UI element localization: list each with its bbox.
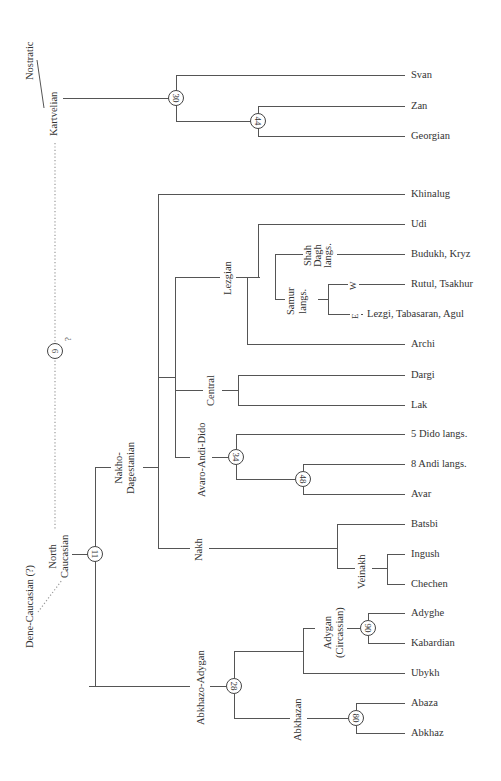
label-shah-dagh: ShahDaghlangs. bbox=[303, 241, 333, 270]
node-80-label: 80 bbox=[351, 710, 361, 726]
node-28-label: 28 bbox=[229, 678, 239, 694]
leaf-ubykh: Ubykh bbox=[411, 667, 440, 679]
leaf-khinalug: Khinalug bbox=[411, 188, 450, 200]
label-avaro-andi-dido: Avaro-Andi-Dido bbox=[196, 421, 207, 499]
label-dene-caucasian: Dene-Caucasian (?) bbox=[24, 563, 35, 650]
label-north-caucasian: NorthCaucasian bbox=[47, 533, 71, 580]
label-abkhazo-adygan: Abkhazo-Adygan bbox=[195, 648, 206, 727]
node-44-label: 44 bbox=[253, 113, 263, 129]
leaf-8-andi-langs: 8 Andi langs. bbox=[411, 458, 467, 470]
leaf-abaza: Abaza bbox=[411, 697, 438, 709]
label-samur-w: W bbox=[348, 282, 359, 291]
leaf-abkhaz: Abkhaz bbox=[411, 727, 444, 739]
leaf-lezgi-tabasaran-agul: Lezgi, Tabasaran, Agul bbox=[367, 308, 464, 320]
node-6-label: 6 bbox=[50, 343, 60, 359]
dene-caucasian-link-line bbox=[38, 580, 62, 612]
label-nostratic: Nostratic bbox=[24, 40, 35, 83]
leaf-avar: Avar bbox=[411, 488, 431, 500]
leaf-lak: Lak bbox=[411, 399, 427, 411]
label-abkhazan: Abkhazan bbox=[292, 696, 303, 743]
leaf-budukh-kryz: Budukh, Kryz bbox=[411, 248, 471, 260]
label-nakho-dagestanian: Nakho-Dagestanian bbox=[113, 440, 137, 496]
leaf-udi: Udi bbox=[411, 218, 427, 230]
node-11-label: 11 bbox=[90, 546, 100, 562]
label-central: Central bbox=[205, 373, 216, 408]
leaf-archi: Archi bbox=[411, 338, 435, 350]
leaf-georgian: Georgian bbox=[411, 130, 450, 142]
leaf-ingush: Ingush bbox=[411, 548, 440, 560]
leaf-kabardian: Kabardian bbox=[411, 637, 455, 649]
label-samur-e: E bbox=[350, 314, 361, 320]
leaf-chechen: Chechen bbox=[411, 578, 448, 590]
label-adygan: Adygan(Circassian) bbox=[322, 605, 346, 660]
node-90-label: 90 bbox=[363, 620, 373, 636]
leaf-5-dido-langs: 5 Dido langs. bbox=[411, 428, 467, 440]
label-kartvelian: Kartvelian bbox=[48, 90, 59, 138]
nostratic-link-line bbox=[37, 60, 44, 108]
tree-diagram bbox=[0, 0, 501, 781]
leaf-rutul-tsakhur: Rutul, Tsakhur bbox=[411, 278, 473, 290]
question-mark: ? bbox=[62, 337, 74, 341]
label-veinakh: Veinakh bbox=[356, 553, 367, 591]
label-lezgian: Lezgian bbox=[222, 259, 233, 297]
node-48-label: 48 bbox=[298, 471, 308, 487]
label-nakh: Nakh bbox=[193, 536, 204, 563]
node-34-label: 34 bbox=[231, 449, 241, 465]
leaf-svan: Svan bbox=[411, 69, 432, 81]
leaf-adyghe: Adyghe bbox=[411, 607, 444, 619]
label-samur: Samurlangs. bbox=[285, 286, 309, 317]
node-30-label: 30 bbox=[171, 90, 181, 106]
leaf-batsbi: Batsbi bbox=[411, 518, 438, 530]
leaf-zan: Zan bbox=[411, 100, 427, 112]
leaf-dargi: Dargi bbox=[411, 369, 435, 381]
